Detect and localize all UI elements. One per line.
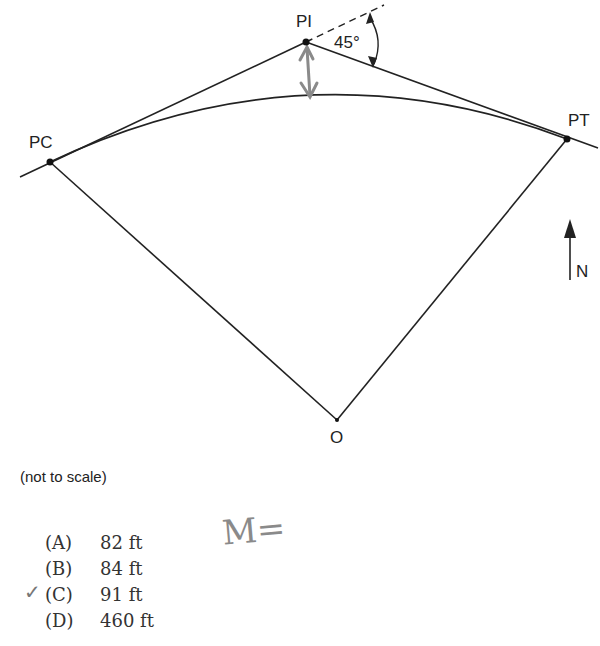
label-pt: PT — [568, 111, 590, 131]
label-pc: PC — [29, 133, 53, 153]
checkmark-icon: ✓ — [24, 580, 41, 604]
choice-b: (B) 84 ft — [45, 556, 154, 582]
point-o — [335, 418, 339, 422]
choice-d: (D) 460 ft — [45, 608, 154, 634]
choice-letter: (B) — [45, 556, 100, 582]
choice-a: (A) 82 ft — [45, 530, 154, 556]
label-pi: PI — [296, 12, 312, 32]
point-pc — [47, 159, 54, 166]
arrowhead-icon — [366, 12, 374, 24]
choice-letter: (A) — [45, 530, 100, 556]
radius-pc — [50, 162, 337, 420]
angle-label: 45° — [334, 33, 360, 53]
handwritten-note: M= — [220, 507, 287, 552]
middle-ordinate-arrow — [300, 47, 317, 97]
label-o: O — [330, 428, 343, 448]
choice-value: 91 ft — [100, 582, 143, 608]
not-to-scale-caption: (not to scale) — [20, 468, 107, 485]
choice-value: 460 ft — [100, 608, 154, 634]
choice-letter: (D) — [45, 608, 100, 634]
north-label: N — [576, 262, 588, 282]
radius-pt — [337, 139, 567, 420]
north-arrow-icon — [564, 219, 576, 238]
point-pt — [564, 136, 571, 143]
choice-letter: (C) — [45, 582, 100, 608]
choice-value: 84 ft — [100, 556, 143, 582]
answer-choices: (A) 82 ft (B) 84 ft (C) 91 ft (D) 460 ft — [45, 530, 154, 634]
point-pi — [303, 39, 310, 46]
choice-c: (C) 91 ft — [45, 582, 154, 608]
curve-arc — [50, 95, 567, 162]
choice-value: 82 ft — [100, 530, 143, 556]
arrowhead-icon — [368, 56, 377, 68]
